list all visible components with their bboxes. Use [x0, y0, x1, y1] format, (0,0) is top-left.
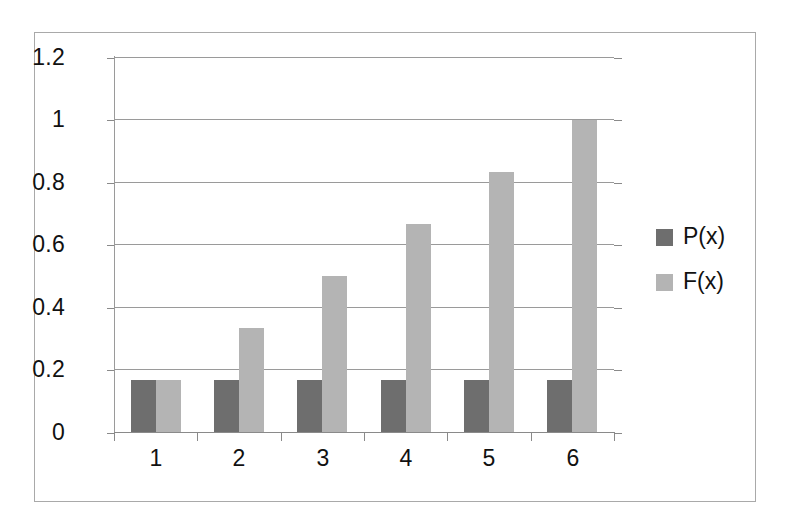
bar-Fx-4: [406, 224, 431, 432]
x-tick-label-5: 5: [459, 447, 519, 470]
category-tick: [364, 432, 365, 441]
chart-screenshot: 1.2 1 0.8 0.6 0.4 0.2 0: [0, 0, 786, 527]
y-axis-tick: [107, 120, 114, 121]
plot-area: [114, 57, 614, 433]
y-tick-label: 0: [0, 421, 65, 444]
category-tick: [281, 432, 282, 441]
y-axis-tick-right: [614, 58, 622, 59]
y-axis-tick-right: [614, 183, 622, 184]
category-tick: [114, 432, 115, 441]
legend-swatch-icon: [656, 229, 673, 246]
y-tick-label: 0.6: [0, 233, 65, 256]
x-tick-label-2: 2: [209, 447, 269, 470]
bar-Fx-2: [239, 328, 264, 432]
bar-Fx-1: [156, 380, 181, 432]
bars-layer: [114, 57, 614, 432]
y-axis-tick: [107, 433, 114, 434]
y-axis-tick: [107, 183, 114, 184]
legend-label: P(x): [683, 223, 725, 251]
category-tick: [531, 432, 532, 441]
y-axis-tick-right: [614, 433, 622, 434]
y-axis-tick: [107, 308, 114, 309]
legend-label: F(x): [683, 268, 724, 296]
y-tick-label: 0.2: [0, 358, 65, 381]
y-axis-tick: [107, 245, 114, 246]
bar-Px-5: [464, 380, 489, 432]
bar-Px-6: [547, 380, 572, 432]
bar-Px-3: [297, 380, 322, 432]
bar-Px-4: [381, 380, 406, 432]
y-axis-tick: [107, 370, 114, 371]
y-axis-tick-right: [614, 308, 622, 309]
category-tick: [614, 432, 615, 441]
y-tick-label: 1: [0, 108, 65, 131]
bar-Px-1: [131, 380, 156, 432]
category-tick: [197, 432, 198, 441]
x-tick-label-4: 4: [376, 447, 436, 470]
x-tick-label-6: 6: [543, 447, 603, 470]
bar-Fx-5: [489, 172, 514, 432]
y-tick-label: 1.2: [0, 46, 65, 69]
legend-swatch-icon: [656, 274, 673, 291]
y-axis-tick-right: [614, 120, 622, 121]
y-axis-tick: [107, 58, 114, 59]
y-tick-label: 0.8: [0, 171, 65, 194]
bar-Fx-3: [322, 276, 347, 432]
chart-frame: 1.2 1 0.8 0.6 0.4 0.2 0: [34, 32, 756, 502]
bar-Px-2: [214, 380, 239, 432]
x-tick-label-3: 3: [293, 447, 353, 470]
x-tick-label-1: 1: [126, 447, 186, 470]
y-tick-label: 0.4: [0, 296, 65, 319]
y-axis-tick-right: [614, 370, 622, 371]
y-axis-tick-right: [614, 245, 622, 246]
bar-Fx-6: [572, 120, 597, 433]
category-tick: [447, 432, 448, 441]
